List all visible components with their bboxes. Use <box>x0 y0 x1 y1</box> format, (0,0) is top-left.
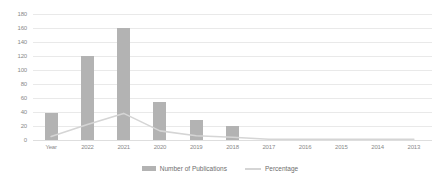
x-tick-label-2017: 2017 <box>252 143 286 151</box>
y-axis: 180160140120100806040200 <box>0 14 29 140</box>
y-tick-label-120: 120 <box>0 53 27 59</box>
x-axis: Year202220212020201920182017201620152014… <box>33 143 432 155</box>
percentage-line-series <box>33 14 432 140</box>
chart-legend: Number of Publications Percentage <box>0 165 440 172</box>
y-tick-label-100: 100 <box>0 67 27 73</box>
y-tick-label-180: 180 <box>0 11 27 17</box>
y-tick-label-40: 40 <box>0 109 27 115</box>
y-tick-label-60: 60 <box>0 95 27 101</box>
plot-area <box>33 14 432 140</box>
legend-label-percentage: Percentage <box>265 165 298 172</box>
x-tick-label-2014: 2014 <box>361 143 395 151</box>
x-tick-label-2013: 2013 <box>397 143 431 151</box>
x-tick-label-2020: 2020 <box>143 143 177 151</box>
legend-label-publications: Number of Publications <box>160 165 227 172</box>
bar-swatch-icon <box>142 166 156 171</box>
publications-percentage-chart: 180160140120100806040200 Year20222021202… <box>0 0 440 183</box>
y-tick-label-80: 80 <box>0 81 27 87</box>
x-tick-label-2016: 2016 <box>288 143 322 151</box>
y-tick-label-160: 160 <box>0 25 27 31</box>
legend-item-publications: Number of Publications <box>142 165 227 172</box>
y-tick-label-0: 0 <box>0 137 27 143</box>
x-tick-label-2015: 2015 <box>324 143 358 151</box>
line-swatch-icon <box>245 166 261 171</box>
x-tick-label-2018: 2018 <box>216 143 250 151</box>
x-tick-label-Year: Year <box>34 143 68 151</box>
percentage-line-path <box>51 113 414 139</box>
x-tick-label-2021: 2021 <box>107 143 141 151</box>
y-tick-label-140: 140 <box>0 39 27 45</box>
x-tick-label-2022: 2022 <box>70 143 104 151</box>
y-tick-label-20: 20 <box>0 123 27 129</box>
gridline-0 <box>33 140 432 141</box>
x-tick-label-2019: 2019 <box>179 143 213 151</box>
legend-item-percentage: Percentage <box>245 165 298 172</box>
